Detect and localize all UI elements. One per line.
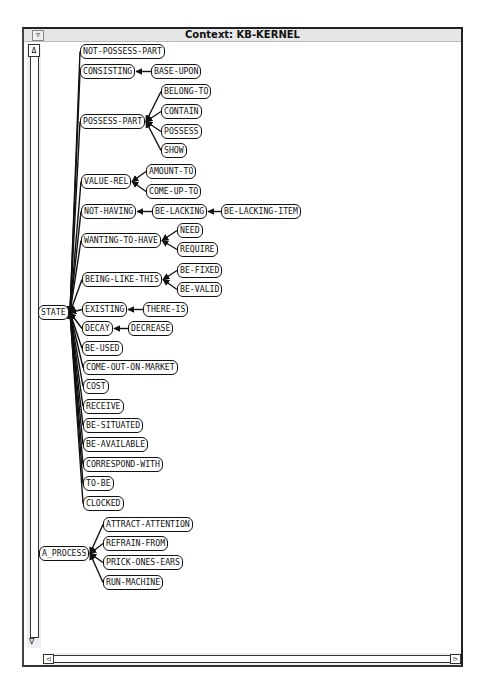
- concept-node-correspond-with[interactable]: CORRESPOND-WITH: [83, 457, 163, 472]
- concept-node-be-lacking-item[interactable]: BE-LACKING-ITEM: [221, 204, 301, 219]
- concept-node-receive[interactable]: RECEIVE: [83, 399, 124, 414]
- concept-node-be-lacking[interactable]: BE-LACKING: [152, 204, 207, 219]
- concept-node-show[interactable]: SHOW: [161, 143, 187, 158]
- horizontal-scrollbar[interactable]: ◁ ▷: [43, 653, 461, 665]
- concept-node-prick-ones-ears[interactable]: PRICK-ONES-EARS: [103, 555, 183, 570]
- concept-node-belong-to[interactable]: BELONG-TO: [161, 84, 211, 99]
- concept-node-consisting[interactable]: CONSISTING: [80, 64, 135, 79]
- concept-node-possess[interactable]: POSSESS: [161, 124, 202, 139]
- concept-node-be-used[interactable]: BE-USED: [82, 341, 123, 356]
- concept-node-not-having[interactable]: NOT-HAVING: [81, 204, 136, 219]
- concept-node-clocked[interactable]: CLOCKED: [83, 496, 124, 511]
- concept-node-run-machine[interactable]: RUN-MACHINE: [103, 575, 163, 590]
- concept-node-amount-to[interactable]: AMOUNT-TO: [146, 164, 196, 179]
- concept-node-need[interactable]: NEED: [177, 223, 203, 238]
- concept-node-come-up-to[interactable]: COME-UP-TO: [146, 184, 201, 199]
- vertical-scroll-thumb[interactable]: [30, 56, 39, 638]
- concept-node-value-rel[interactable]: VALUE-REL: [81, 174, 131, 189]
- concept-node-decrease[interactable]: DECREASE: [128, 321, 173, 336]
- window-title: Context: KB-KERNEL: [24, 29, 461, 41]
- concept-node-a-process[interactable]: A_PROCESS: [39, 546, 89, 561]
- concept-node-cost[interactable]: COST: [83, 379, 109, 394]
- concept-node-come-out-on-market[interactable]: COME-OUT-ON-MARKET: [83, 360, 178, 375]
- concept-node-not-possess-part[interactable]: NOT-POSSESS-PART: [80, 44, 165, 59]
- concept-node-require[interactable]: REQUIRE: [177, 242, 218, 257]
- concept-node-base-upon[interactable]: BASE-UPON: [151, 64, 201, 79]
- concept-node-existing[interactable]: EXISTING: [82, 302, 127, 317]
- horizontal-scroll-thumb[interactable]: [53, 655, 451, 663]
- concept-node-wanting-to-have[interactable]: WANTING-TO-HAVE: [81, 233, 161, 248]
- concept-node-state[interactable]: STATE: [38, 305, 69, 320]
- scroll-right-icon[interactable]: ▷: [450, 654, 461, 664]
- concept-node-refrain-from[interactable]: REFRAIN-FROM: [103, 536, 168, 551]
- concept-node-decay[interactable]: DECAY: [82, 321, 113, 336]
- scroll-down-icon[interactable]: ∇: [29, 636, 34, 646]
- concept-node-be-available[interactable]: BE-AVAILABLE: [83, 437, 148, 452]
- concept-node-be-fixed[interactable]: BE-FIXED: [177, 263, 222, 278]
- concept-node-attract-attention[interactable]: ATTRACT-ATTENTION: [103, 517, 193, 532]
- concept-node-be-valid[interactable]: BE-VALID: [177, 282, 222, 297]
- title-bar[interactable]: ▽ Context: KB-KERNEL: [24, 29, 461, 42]
- concept-node-there-is[interactable]: THERE-IS: [143, 302, 188, 317]
- concept-node-contain[interactable]: CONTAIN: [161, 104, 202, 119]
- concept-node-possess-part[interactable]: POSSESS-PART: [80, 114, 145, 129]
- concept-node-being-like-this[interactable]: BEING-LIKE-THIS: [82, 272, 162, 287]
- concept-node-be-situated[interactable]: BE-SITUATED: [83, 418, 143, 433]
- concept-node-to-be[interactable]: TO-BE: [83, 476, 114, 491]
